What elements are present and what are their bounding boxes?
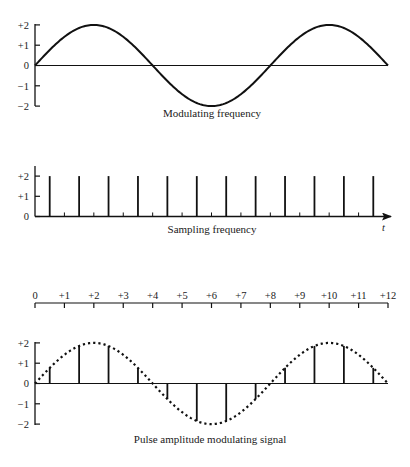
panel1-y-tick-label: −1 (18, 81, 29, 92)
time-scale-tick-label: +11 (351, 290, 367, 301)
pam-figure: +2+10−1−2 Modulating frequency +2+10 t S… (0, 0, 410, 467)
panel1-y-tick-label: +2 (18, 20, 29, 31)
panel2-caption: Sampling frequency (168, 223, 257, 235)
time-scale-tick-label: +10 (321, 290, 337, 301)
time-scale-tick-label: +3 (118, 290, 129, 301)
time-scale: 0+1+2+3+4+5+6+7+8+9+10+11+12 (32, 290, 396, 308)
time-scale-tick-label: +6 (206, 290, 217, 301)
panel2-y-tick-label: 0 (24, 211, 29, 222)
panel2-y-tick-label: +2 (18, 171, 29, 182)
panel1-y-tick-label: −2 (18, 101, 29, 112)
panel3-caption: Pulse amplitude modulating signal (134, 433, 286, 445)
panel1-caption: Modulating frequency (163, 107, 262, 119)
panel1-y-tick-label: +1 (18, 40, 29, 51)
time-axis-label: t (382, 222, 386, 233)
panel2-y-tick-label: +1 (18, 191, 29, 202)
panel3-y-tick-label: +1 (18, 358, 29, 369)
time-scale-tick-label: +4 (147, 290, 159, 301)
time-scale-tick-label: +2 (88, 290, 99, 301)
time-scale-tick-label: +5 (176, 290, 187, 301)
time-scale-tick-label: 0 (32, 290, 37, 301)
time-scale-tick-label: +8 (265, 290, 276, 301)
panel3-y-tick-label: −1 (18, 399, 29, 410)
modulating-frequency-panel: +2+10−1−2 Modulating frequency (18, 20, 388, 119)
time-scale-tick-label: +12 (380, 290, 396, 301)
sampling-frequency-panel: +2+10 t Sampling frequency (18, 166, 391, 235)
panel3-y-tick-label: +2 (18, 338, 29, 349)
time-scale-tick-label: +1 (59, 290, 70, 301)
pam-signal-panel: +2+10−1−2 Pulse amplitude modulating sig… (18, 338, 388, 445)
panel1-y-tick-label: 0 (24, 60, 29, 71)
time-scale-tick-label: +7 (235, 290, 246, 301)
panel3-y-tick-label: 0 (24, 378, 29, 389)
time-scale-tick-label: +9 (294, 290, 305, 301)
panel3-y-tick-label: −2 (18, 419, 29, 430)
